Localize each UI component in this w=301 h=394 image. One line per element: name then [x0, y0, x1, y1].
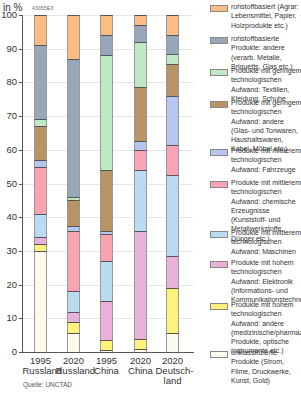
y-tick — [19, 217, 22, 218]
y-tick-label: 50 — [0, 178, 17, 189]
bar-segment — [166, 256, 179, 288]
bar-segment — [34, 15, 47, 45]
x-axis-label: 1995Russland — [23, 356, 59, 376]
legend-swatch — [210, 5, 228, 12]
legend-label: Produkte mit mittlerem technologischen A… — [231, 228, 301, 256]
y-tick-label: 80 — [0, 76, 17, 87]
bar-segment — [100, 55, 113, 170]
y-tick — [19, 116, 22, 117]
source-note: Quelle: UNCTAD — [23, 381, 72, 388]
bar-segment — [67, 226, 80, 231]
bar-segment — [100, 301, 113, 340]
y-tick — [19, 49, 22, 50]
bar-segment — [100, 350, 113, 352]
legend-label: Produkte mit hohem technologischen Aufwa… — [231, 258, 301, 304]
bar-segment — [67, 197, 80, 200]
y-tick-label: 30 — [0, 245, 17, 256]
bar-segment — [166, 54, 179, 64]
bar-segment — [134, 339, 147, 349]
legend-swatch — [210, 101, 228, 108]
bar-segment — [100, 231, 113, 234]
chart-code: 43055EX — [32, 5, 54, 11]
bar-segment — [34, 119, 47, 126]
bar-segment — [134, 349, 147, 352]
bar-segment — [67, 200, 80, 225]
bar-segment — [100, 170, 113, 231]
bar-segment — [166, 175, 179, 256]
bar-segment — [100, 15, 113, 35]
y-tick — [19, 251, 22, 252]
legend-label: unklassifizierte Produkte (Strom, Filme,… — [231, 348, 301, 385]
bar-segment — [67, 59, 80, 197]
bar-segment — [100, 261, 113, 301]
bar-segment — [134, 170, 147, 231]
legend-swatch — [210, 69, 228, 76]
legend-swatch — [210, 181, 228, 188]
bar-segment — [34, 45, 47, 119]
bar-segment — [67, 312, 80, 322]
legend-swatch — [210, 149, 228, 156]
bar-segment — [166, 15, 179, 35]
bar-segment — [34, 237, 47, 244]
y-tick — [19, 318, 22, 319]
y-tick-label: 90 — [0, 43, 17, 54]
bar-segment — [100, 234, 113, 261]
bar-segment — [134, 150, 147, 170]
bar-segment — [67, 333, 80, 352]
bar-segment — [166, 35, 179, 54]
x-axis-label: 1995China — [90, 356, 124, 376]
bar-segment — [100, 35, 113, 55]
legend-swatch — [210, 231, 228, 238]
y-tick-label: 70 — [0, 110, 17, 121]
y-tick — [19, 82, 22, 83]
bar-segment — [166, 333, 179, 352]
bar-segment — [34, 214, 47, 238]
bar-segment — [134, 25, 147, 42]
bar-segment — [134, 15, 147, 25]
y-tick-label: 20 — [0, 279, 17, 290]
bar-segment — [67, 231, 80, 292]
legend-swatch — [210, 351, 228, 358]
bar-segment — [134, 42, 147, 87]
bar-segment — [166, 288, 179, 333]
y-tick — [19, 150, 22, 151]
legend-swatch — [210, 37, 228, 44]
y-tick-label: 0 — [0, 346, 17, 357]
y-tick — [19, 184, 22, 185]
bar-segment — [134, 231, 147, 339]
legend-label: Produkte mit mittlerem technologischen A… — [231, 146, 301, 174]
x-axis-label: 2020China — [124, 356, 158, 376]
bar-segment — [67, 322, 80, 334]
x-axis — [22, 352, 194, 353]
y-tick — [19, 352, 22, 353]
x-axis-label: 2020Russland — [56, 356, 92, 376]
y-tick — [19, 285, 22, 286]
bar-segment — [34, 167, 47, 214]
legend-label: rohstoffbasiert (Agrar: Lebensmittel, Pa… — [231, 2, 301, 30]
y-tick — [19, 15, 22, 16]
bar-segment — [34, 251, 47, 352]
bar-segment — [100, 340, 113, 350]
legend-swatch — [210, 303, 228, 310]
bar-segment — [67, 291, 80, 311]
y-tick-label: 10 — [0, 312, 17, 323]
bar-segment — [34, 244, 47, 251]
x-axis-label: 2020Deutsch-land — [156, 356, 190, 386]
bar-segment — [166, 96, 179, 145]
bar-segment — [166, 64, 179, 96]
bar-segment — [134, 87, 147, 141]
legend-swatch — [210, 261, 228, 268]
bar-segment — [166, 145, 179, 175]
bar-segment — [34, 160, 47, 167]
y-tick-label: 100 — [0, 9, 17, 20]
bar-segment — [34, 126, 47, 160]
y-tick-label: 60 — [0, 144, 17, 155]
bar-segment — [67, 15, 80, 59]
y-tick-label: 40 — [0, 211, 17, 222]
bar-segment — [134, 141, 147, 149]
